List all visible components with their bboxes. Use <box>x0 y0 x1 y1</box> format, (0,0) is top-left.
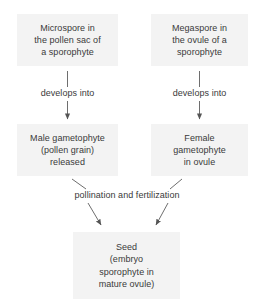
node-female-gametophyte-line-2: gametophyte <box>173 144 226 156</box>
flowchart-diagram: Microspore in the pollen sac of a sporop… <box>0 0 255 305</box>
edge-label-develops-into-right: develops into <box>162 88 237 99</box>
node-male-gametophyte: Male gametophyte (pollen grain) released <box>17 124 118 176</box>
arrow-male-to-seed-upper <box>72 179 86 189</box>
arrow-female-to-seed-upper <box>170 179 182 189</box>
edge-label-pollination-and-fertilization: pollination and fertilization <box>58 190 196 201</box>
node-female-gametophyte-line-1: Female <box>184 132 214 144</box>
node-male-gametophyte-line-3: released <box>50 156 85 168</box>
node-megaspore-line-2: the ovule of a <box>172 34 227 46</box>
node-seed-line-4: mature ovule) <box>99 278 155 290</box>
node-microspore-line-2: the pollen sac of <box>34 34 100 46</box>
node-megaspore: Megaspore in the ovule of a sporophyte <box>151 14 248 66</box>
edge-label-develops-into-left: develops into <box>30 88 105 99</box>
arrow-female-to-seed-lower <box>156 203 168 225</box>
node-seed-line-3: sporophyte in <box>99 266 154 278</box>
node-male-gametophyte-line-2: (pollen grain) <box>41 144 94 156</box>
node-seed-line-2: (embryo <box>110 253 143 265</box>
node-male-gametophyte-line-1: Male gametophyte <box>30 132 105 144</box>
node-megaspore-line-1: Megaspore in <box>172 22 227 34</box>
node-female-gametophyte-line-3: in ovule <box>184 156 215 168</box>
node-female-gametophyte: Female gametophyte in ovule <box>151 124 248 176</box>
node-megaspore-line-3: sporophyte <box>177 46 222 58</box>
node-seed-line-1: Seed <box>116 241 137 253</box>
node-microspore-line-3: a sporophyte <box>41 46 94 58</box>
arrow-male-to-seed-lower <box>88 203 101 225</box>
node-microspore: Microspore in the pollen sac of a sporop… <box>17 14 118 66</box>
node-microspore-line-1: Microspore in <box>40 22 95 34</box>
node-seed: Seed (embryo sporophyte in mature ovule) <box>73 232 180 299</box>
